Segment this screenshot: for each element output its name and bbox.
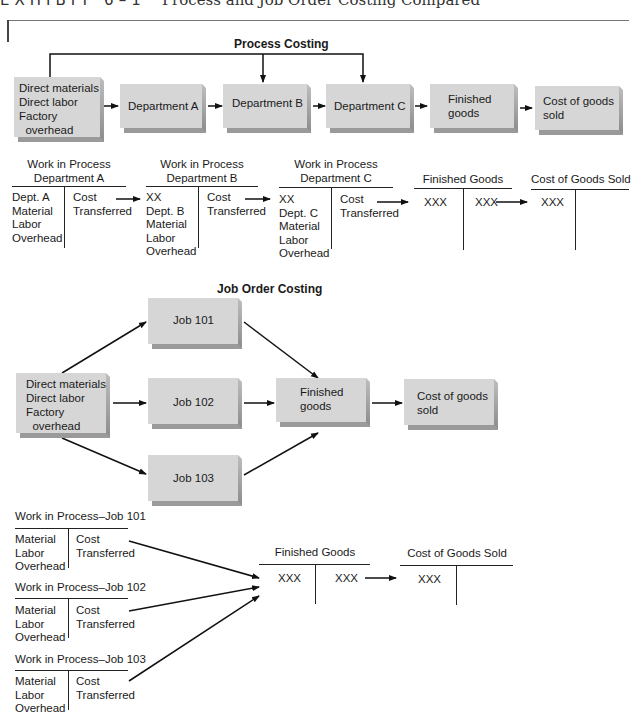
input-line: Direct labor: [26, 391, 106, 405]
t-account-credit: Cost Transferred: [340, 193, 399, 220]
entry: XX: [146, 191, 197, 205]
t-account-credit: Cost Transferred: [76, 675, 135, 702]
t-account-rule: [146, 186, 258, 187]
entry: Cost: [207, 191, 266, 205]
entry: Cost: [76, 604, 135, 618]
t-account-title-line: Work in Process: [12, 157, 126, 171]
entry: Transferred: [76, 689, 135, 703]
job-inputs-box: Direct materials Direct labor Factory ov…: [16, 373, 106, 433]
t-account-debit: XXX: [418, 573, 441, 587]
entry: Labor: [15, 618, 66, 632]
entry: Transferred: [73, 205, 132, 219]
entry: Material: [15, 675, 66, 689]
entry: Material: [15, 604, 66, 618]
t-account-title-line: Department C: [279, 171, 393, 185]
entry: XX: [279, 193, 330, 207]
department-a-label: Department A: [128, 99, 198, 113]
cogs-line: Cost of goods: [543, 94, 614, 108]
t-account-divider: [198, 186, 199, 248]
t-account-title-line: Cost of Goods Sold: [400, 546, 514, 560]
t-account-divider: [315, 564, 316, 604]
cogs-line: sold: [417, 403, 488, 417]
entry: Material: [12, 205, 63, 219]
t-account-title: Work in Process Department C: [279, 157, 393, 185]
t-account-credit: Cost Transferred: [76, 533, 135, 560]
t-account-title: Work in Process–Job 103: [15, 652, 146, 666]
cogs-box: Cost of goods sold: [535, 86, 619, 130]
t-account-rule: [531, 189, 629, 190]
t-account-debit: XXX: [278, 572, 301, 586]
input-line: Direct labor: [19, 95, 99, 109]
job-102-box: Job 102: [148, 378, 238, 424]
finished-goods-box: Finished goods: [430, 84, 514, 128]
t-account-divider: [331, 187, 332, 249]
t-account-title: Work in Process–Job 102: [15, 580, 146, 594]
t-account-title: Work in Process Department B: [146, 157, 258, 185]
cogs-line: Cost of goods: [417, 389, 488, 403]
entry: Cost: [76, 675, 135, 689]
entry: Material: [15, 533, 66, 547]
entry: Transferred: [76, 547, 135, 561]
t-account-title-line: Department A: [12, 171, 126, 185]
finished-goods-line: goods: [300, 399, 343, 413]
job-finished-goods-box: Finished goods: [276, 378, 366, 422]
t-account-debit: Material Labor Overhead: [15, 675, 66, 715]
entry: Overhead: [12, 232, 63, 246]
process-costing-title: Process Costing: [234, 37, 329, 51]
t-account-rule: [12, 186, 126, 187]
finished-goods-line: goods: [448, 106, 491, 120]
t-account-debit: XXX: [424, 196, 447, 210]
t-account-debit: XX Dept. B Material Labor Overhead: [146, 191, 197, 259]
t-account-divider: [68, 598, 69, 638]
input-line: Direct materials: [19, 81, 99, 95]
t-account-title-line: Finished Goods: [260, 545, 370, 559]
entry: Cost: [73, 191, 132, 205]
t-account-title-line: Cost of Goods Sold: [531, 172, 627, 186]
entry: Transferred: [340, 207, 399, 221]
t-account-divider: [456, 565, 457, 605]
finished-goods-line: Finished: [448, 92, 491, 106]
t-account-credit: Cost Transferred: [76, 604, 135, 631]
t-account-debit: Material Labor Overhead: [15, 533, 66, 574]
t-account-title-line: Work in Process–Job 101: [15, 509, 146, 523]
entry: XXX: [541, 196, 564, 210]
job-103-box: Job 103: [148, 455, 238, 501]
entry: Cost: [340, 193, 399, 207]
t-account-title: Cost of Goods Sold: [400, 546, 514, 560]
t-account-divider: [64, 186, 65, 248]
entry: Transferred: [76, 618, 135, 632]
t-account-title: Finished Goods: [414, 172, 512, 186]
t-account-title-line: Finished Goods: [414, 172, 512, 186]
department-b-box: Department B: [223, 84, 307, 128]
entry: Overhead: [15, 560, 66, 574]
t-account-debit: XX Dept. C Material Labor Overhead: [279, 193, 330, 261]
t-account-divider: [575, 189, 576, 250]
entry: Dept. C: [279, 207, 330, 221]
t-account-title: Finished Goods: [260, 545, 370, 559]
t-account-debit: Dept. A Material Labor Overhead: [12, 191, 63, 245]
entry: Cost: [76, 533, 135, 547]
entry: XXX: [335, 572, 358, 586]
entry: Dept. B: [146, 205, 197, 219]
t-account-title: Work in Process–Job 101: [15, 509, 146, 523]
t-account-title-line: Department B: [146, 171, 258, 185]
entry: Overhead: [146, 245, 197, 259]
entry: XXX: [424, 196, 447, 210]
entry: Labor: [15, 689, 66, 703]
entry: Material: [146, 218, 197, 232]
t-account-title-line: Work in Process: [279, 157, 393, 171]
input-line: overhead: [26, 419, 106, 433]
entry: Labor: [15, 547, 66, 561]
t-account-title-line: Work in Process–Job 102: [15, 580, 146, 594]
department-b-label: Department B: [232, 96, 303, 110]
job-order-costing-title: Job Order Costing: [217, 282, 322, 296]
t-account-divider: [68, 670, 69, 710]
t-account-debit: XXX: [541, 196, 564, 210]
t-account-credit: XXX: [475, 196, 498, 210]
entry: XXX: [278, 572, 301, 586]
t-account-credit: Cost Transferred: [73, 191, 132, 218]
input-line: Factory: [19, 109, 99, 123]
process-inputs-box: Direct materials Direct labor Factory ov…: [14, 77, 100, 137]
entry: Transferred: [207, 205, 266, 219]
finished-goods-line: Finished: [300, 385, 343, 399]
